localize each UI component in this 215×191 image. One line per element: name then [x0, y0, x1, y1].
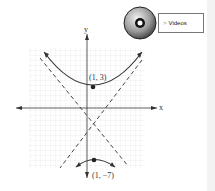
x-axis-label: x — [159, 103, 163, 112]
hyperbola-graph — [0, 0, 215, 191]
vertex-lower-label: (1, −7) — [92, 171, 114, 180]
y-axis-label: y — [84, 25, 88, 34]
vertex-upper-label: (1, 3) — [89, 73, 106, 82]
